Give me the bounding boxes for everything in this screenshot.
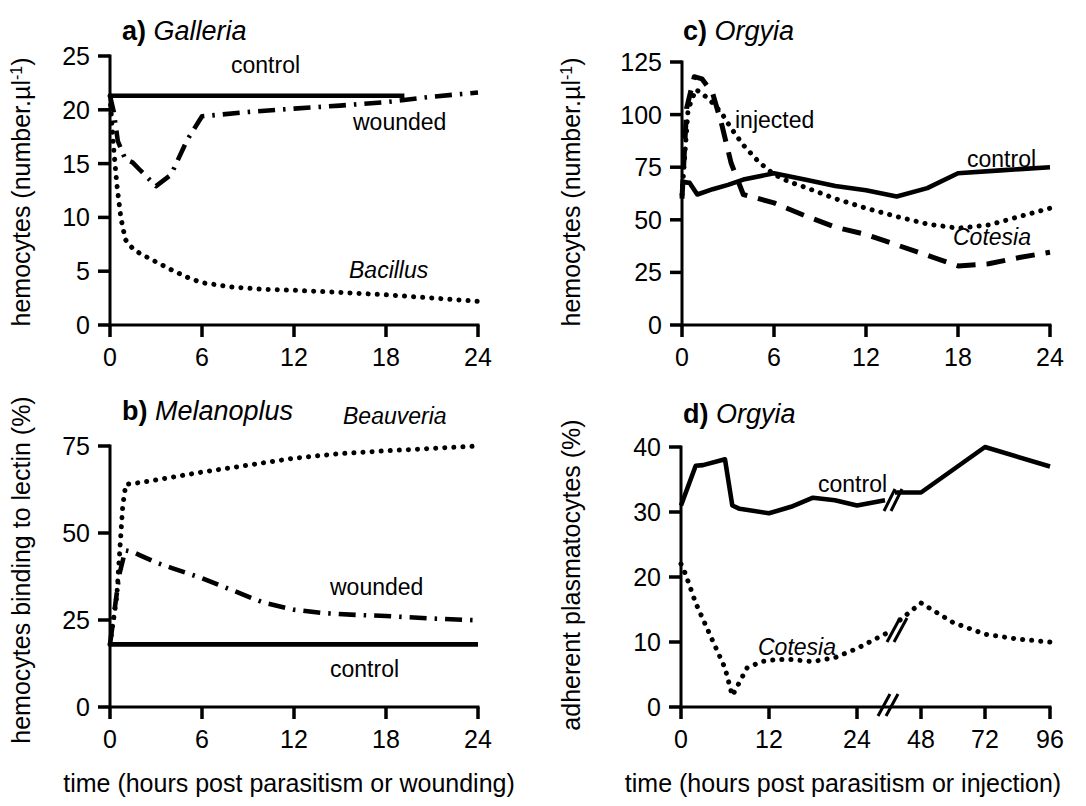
label-injected: injected (735, 107, 814, 133)
svg-text:5: 5 (76, 257, 90, 285)
svg-text:75: 75 (62, 432, 90, 460)
panel-d-xticklabels: 0 12 24 48 72 96 (674, 725, 1064, 753)
label-cotesia: Cotesia (953, 224, 1031, 250)
panel-a-xticklabels: 0 6 12 18 24 (103, 343, 492, 371)
panel-c-annotations: injected control Cotesia (735, 107, 1036, 250)
panel-a-title: a) Galleria (122, 16, 247, 46)
panel-b-svg: b) Melanoplus hemocytes binding to lecti… (0, 380, 543, 806)
panel-c-yticklabels: 0 25 50 75 100 125 (620, 48, 662, 339)
svg-text:125: 125 (620, 48, 662, 76)
svg-text:0: 0 (103, 343, 117, 371)
svg-text:0: 0 (675, 343, 689, 371)
svg-text:0: 0 (103, 725, 117, 753)
svg-text:18: 18 (944, 343, 972, 371)
svg-text:6: 6 (195, 725, 209, 753)
panel-d-axis-break-marker (878, 694, 898, 716)
panel-a-species: Galleria (154, 16, 247, 46)
svg-text:30: 30 (633, 498, 661, 526)
panel-d: d) Orgyia adherent plasmatocytes (%) (543, 380, 1086, 806)
panel-d-species: Orgyia (716, 399, 796, 429)
panel-b-letter: b) (122, 396, 147, 426)
panel-d-ylabel: adherent plasmatocytes (%) (557, 419, 585, 730)
panel-a-annotations: control wounded Bacillus (231, 52, 446, 283)
panel-a: a) Galleria hemocytes (number.µl-1) 0 5 … (0, 0, 543, 400)
svg-text:12: 12 (852, 343, 880, 371)
label-cotesia: Cotesia (758, 634, 836, 660)
panel-a-ylabel: hemocytes (number.µl-1) (7, 57, 35, 326)
caption-right: time (hours post parasitism or injection… (625, 769, 1061, 797)
panel-d-svg: d) Orgyia adherent plasmatocytes (%) (543, 380, 1086, 806)
panel-c-letter: c) (683, 16, 707, 46)
svg-text:24: 24 (464, 343, 492, 371)
panel-a-yticklabels: 0 5 10 15 20 25 (62, 42, 90, 339)
panel-b-title: b) Melanoplus (122, 396, 293, 426)
label-control: control (231, 52, 300, 78)
svg-text:10: 10 (633, 628, 661, 656)
panel-b-ylabel: hemocytes binding to lectin (%) (7, 396, 35, 743)
panel-b-series (110, 446, 478, 644)
svg-text:12: 12 (280, 725, 308, 753)
svg-text:6: 6 (195, 343, 209, 371)
svg-text:20: 20 (62, 96, 90, 124)
label-beauveria: Beauveria (343, 403, 447, 429)
svg-text:40: 40 (633, 433, 661, 461)
label-control: control (818, 471, 887, 497)
svg-text:50: 50 (62, 519, 90, 547)
panel-b-species: Melanoplus (155, 396, 293, 426)
svg-text:15: 15 (62, 150, 90, 178)
svg-text:0: 0 (76, 693, 90, 721)
svg-text:0: 0 (648, 311, 662, 339)
panel-d-title: d) Orgyia (683, 399, 796, 429)
svg-text:18: 18 (372, 725, 400, 753)
label-bacillus: Bacillus (349, 257, 429, 283)
panel-a-svg: a) Galleria hemocytes (number.µl-1) 0 5 … (0, 0, 543, 400)
svg-text:72: 72 (971, 725, 999, 753)
svg-text:18: 18 (372, 343, 400, 371)
svg-text:12: 12 (755, 725, 783, 753)
svg-text:50: 50 (634, 206, 662, 234)
panel-c-title: c) Orgyia (683, 16, 794, 46)
panel-b-annotations: Beauveria wounded control (329, 403, 447, 682)
svg-text:25: 25 (634, 258, 662, 286)
series-line-cotesia (681, 564, 1050, 696)
panel-c: c) Orgyia hemocytes (number.µl-1) 0 25 5… (543, 0, 1086, 400)
label-wounded: wounded (329, 574, 423, 600)
svg-text:0: 0 (647, 693, 661, 721)
panel-c-xticklabels: 0 6 12 18 24 (675, 343, 1064, 371)
figure-root: a) Galleria hemocytes (number.µl-1) 0 5 … (0, 0, 1086, 806)
series-line-wounded (110, 93, 478, 187)
svg-text:24: 24 (464, 725, 492, 753)
svg-text:24: 24 (843, 725, 871, 753)
svg-text:25: 25 (62, 42, 90, 70)
svg-text:12: 12 (280, 343, 308, 371)
label-control: control (967, 146, 1036, 172)
panel-c-axes (670, 62, 1050, 337)
panel-c-ylabel: hemocytes (number.µl-1) (557, 57, 585, 326)
svg-text:96: 96 (1036, 725, 1064, 753)
svg-text:25: 25 (62, 606, 90, 634)
series-line-beauveria (110, 446, 478, 644)
svg-text:0: 0 (76, 311, 90, 339)
svg-text:24: 24 (1036, 343, 1064, 371)
panel-b: b) Melanoplus hemocytes binding to lecti… (0, 380, 543, 806)
panel-c-species: Orgyia (715, 16, 795, 46)
label-wounded: wounded (352, 109, 446, 135)
svg-text:100: 100 (620, 101, 662, 129)
svg-text:10: 10 (62, 203, 90, 231)
panel-b-xticklabels: 0 6 12 18 24 (103, 725, 492, 753)
panel-a-letter: a) (122, 16, 146, 46)
label-control: control (330, 656, 399, 682)
svg-text:6: 6 (767, 343, 781, 371)
panel-d-letter: d) (683, 399, 708, 429)
panel-d-series-break-markers (884, 489, 907, 642)
caption-left: time (hours post parasitism or wounding) (63, 769, 515, 797)
svg-text:75: 75 (634, 153, 662, 181)
panel-a-axes (98, 56, 478, 337)
svg-text:20: 20 (633, 563, 661, 591)
svg-text:0: 0 (674, 725, 688, 753)
panel-b-yticklabels: 0 25 50 75 (62, 432, 90, 721)
panel-c-svg: c) Orgyia hemocytes (number.µl-1) 0 25 5… (543, 0, 1086, 400)
svg-text:48: 48 (907, 725, 935, 753)
panel-d-yticklabels: 0 10 20 30 40 (633, 433, 661, 721)
